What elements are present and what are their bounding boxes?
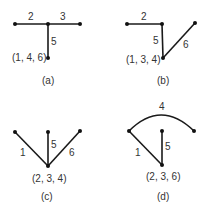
panel-caption: (c) [41, 191, 53, 202]
node [78, 129, 82, 133]
edge-label: 1 [20, 147, 26, 158]
edge-arc [129, 115, 194, 131]
edge-label: 5 [51, 36, 57, 47]
node [127, 129, 131, 133]
panel-b: 2 5 6 (1, 3, 4) (b) [125, 11, 197, 86]
edge-label: 5 [153, 35, 159, 46]
node [46, 56, 50, 60]
node [46, 130, 50, 134]
panel-d: 4 1 5 (2, 3, 6) (d) [127, 101, 196, 202]
edge-label: 2 [28, 11, 34, 22]
panel-c: 1 5 6 (2, 3, 4) (c) [13, 129, 82, 202]
node [125, 22, 129, 26]
edge-label: 4 [159, 101, 165, 112]
panel-caption: (d) [157, 191, 169, 202]
node [78, 22, 82, 26]
node [13, 130, 17, 134]
edge-label: 5 [165, 141, 171, 152]
panel-caption: (b) [157, 75, 169, 86]
edge-label: 2 [141, 11, 147, 22]
panel-caption: (a) [42, 75, 54, 86]
edge [129, 131, 162, 165]
edge [162, 24, 163, 58]
root-label: (2, 3, 4) [32, 173, 66, 184]
edge-label: 6 [69, 147, 75, 158]
node [160, 129, 164, 133]
node [160, 22, 164, 26]
node [192, 129, 196, 133]
edge [163, 23, 195, 58]
node [13, 22, 17, 26]
root-label: (1, 4, 6) [12, 52, 46, 63]
node [161, 56, 165, 60]
edge-label: 5 [51, 139, 57, 150]
panel-a: 2 3 5 (1, 4, 6) (a) [12, 11, 82, 86]
node [46, 164, 50, 168]
root-label: (1, 3, 4) [126, 54, 160, 65]
node [160, 163, 164, 167]
tree-diagram: 2 3 5 (1, 4, 6) (a) 2 5 6 (1, 3, 4) (b) … [0, 0, 210, 212]
edge-label: 1 [135, 147, 141, 158]
edge-label: 3 [60, 11, 66, 22]
node [193, 21, 197, 25]
edge-label: 6 [183, 39, 189, 50]
root-label: (2, 3, 6) [146, 171, 180, 182]
node [46, 22, 50, 26]
